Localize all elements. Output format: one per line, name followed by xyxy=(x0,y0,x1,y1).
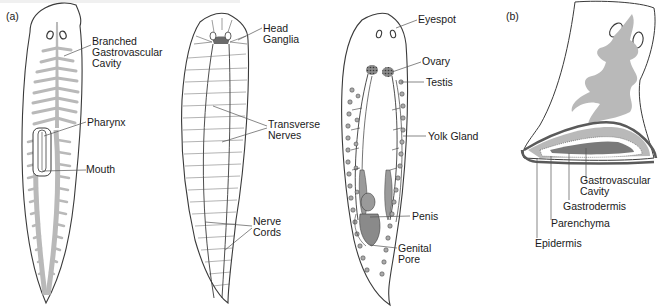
planarian-anatomy-figure: (a) (b) Branched Gastrovascular Cavity P… xyxy=(0,0,665,307)
label-ovary: Ovary xyxy=(422,56,450,67)
label-eyespot: Eyespot xyxy=(418,14,456,25)
label-gastrovascular-cavity: Gastrovascular Cavity xyxy=(580,175,651,197)
panel-a-tag: (a) xyxy=(6,10,19,22)
digestive-worm xyxy=(22,3,82,303)
label-penis: Penis xyxy=(412,211,438,222)
label-gastrodermis: Gastrodermis xyxy=(563,201,626,212)
label-mouth: Mouth xyxy=(86,164,115,175)
label-nerve-cords: Nerve Cords xyxy=(253,216,281,238)
label-parenchyma: Parenchyma xyxy=(551,218,610,229)
nervous-worm xyxy=(182,13,249,303)
label-pharynx: Pharynx xyxy=(87,117,126,128)
label-head-ganglia: Head Ganglia xyxy=(263,23,299,45)
label-transverse-nerves: Transverse Nerves xyxy=(268,119,320,141)
label-branched-gastrovascular-cavity: Branched Gastrovascular Cavity xyxy=(92,36,163,69)
cross-section-drawing xyxy=(522,1,656,163)
panel-b-tag: (b) xyxy=(506,10,519,22)
label-testis: Testis xyxy=(426,77,453,88)
label-yolk-gland: Yolk Gland xyxy=(428,131,478,142)
label-genital-pore: Genital Pore xyxy=(398,243,431,265)
label-epidermis: Epidermis xyxy=(535,238,582,249)
